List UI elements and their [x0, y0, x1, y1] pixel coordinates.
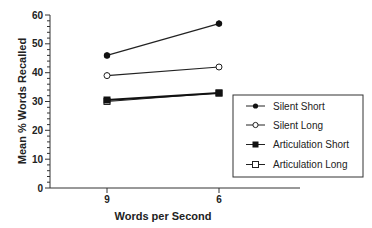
y-tick-label: 40: [32, 67, 44, 78]
x-axis-title: Words per Second: [115, 210, 212, 222]
y-tick-label: 30: [32, 96, 44, 107]
legend: Silent Short Silent Long Articulation Sh…: [233, 95, 363, 177]
legend-label: Articulation Long: [273, 159, 348, 170]
line-chart: 0 10 20 30 40 50 60 9 6 Words per Second…: [0, 0, 372, 228]
filled-circle-icon: [253, 103, 258, 108]
series-silent-long: [104, 64, 222, 79]
legend-label: Silent Long: [273, 120, 323, 131]
legend-label: Articulation Short: [273, 139, 349, 150]
filled-square-marker: [216, 90, 223, 97]
y-major-ticks: [45, 15, 50, 188]
y-tick-label: 0: [37, 183, 43, 194]
open-circle-icon: [253, 122, 258, 127]
y-axis-title: Mean % Words Recalled: [16, 38, 28, 164]
x-tick-label: 9: [104, 194, 110, 205]
series-articulation-short: [104, 90, 223, 104]
legend-label: Silent Short: [273, 101, 325, 112]
y-tick-label: 20: [32, 125, 44, 136]
open-circle-marker: [104, 73, 110, 79]
y-tick-label: 60: [32, 10, 44, 21]
filled-square-icon: [253, 142, 259, 148]
filled-circle-marker: [216, 20, 222, 26]
open-circle-marker: [216, 64, 222, 70]
series-silent-short: [104, 20, 222, 59]
filled-circle-marker: [104, 52, 110, 58]
y-tick-label: 10: [32, 154, 44, 165]
x-tick-label: 6: [216, 194, 222, 205]
filled-square-marker: [104, 97, 111, 104]
y-tick-label: 50: [32, 38, 44, 49]
open-square-icon: [253, 162, 259, 168]
